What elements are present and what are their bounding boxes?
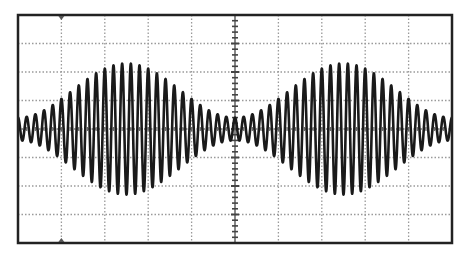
trigger-marker-bottom-icon [58, 238, 64, 242]
oscilloscope-display [0, 0, 468, 253]
center-axes [18, 15, 452, 243]
trigger-marker-top-icon [58, 16, 64, 20]
